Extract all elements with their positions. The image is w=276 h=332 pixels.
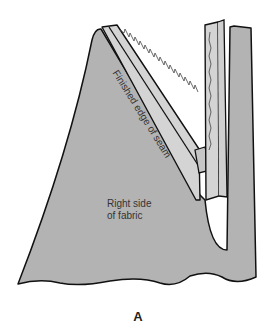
fabric-label-line2: of fabric <box>107 210 151 222</box>
fabric-label: Right side of fabric <box>107 198 151 222</box>
figure-caption: A <box>0 309 276 324</box>
seam-allowance-vertical-inner <box>218 20 227 197</box>
seam-allowance-vertical <box>205 22 219 200</box>
seam-illustration <box>0 0 276 332</box>
fabric-label-line1: Right side <box>107 198 151 210</box>
